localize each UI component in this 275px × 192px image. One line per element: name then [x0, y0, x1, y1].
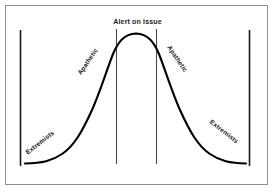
bell-curve-figure: Alert on Issue Apathetic Apathetic Extre…: [0, 0, 275, 192]
page-title: Alert on Issue: [0, 18, 275, 25]
bell-curve-path: [25, 34, 246, 164]
plot-area: [0, 0, 275, 192]
